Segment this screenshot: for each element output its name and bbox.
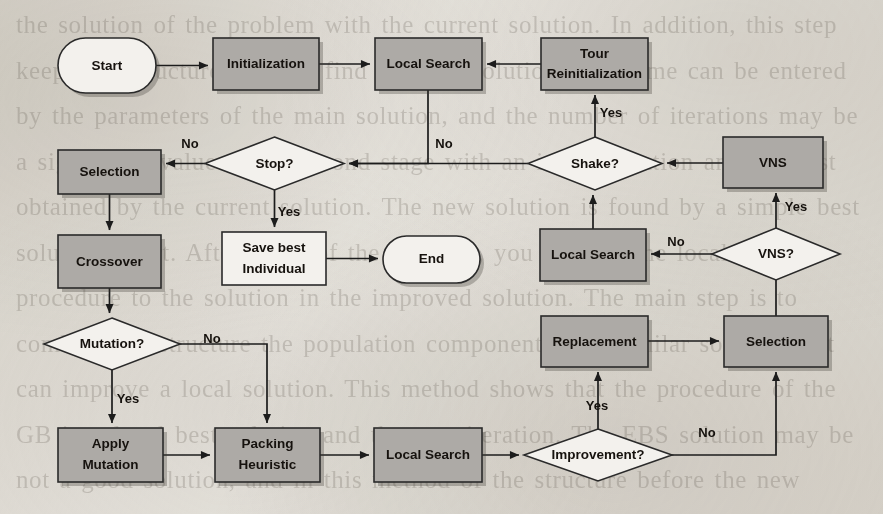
edge-label-stop-no: No [181, 136, 198, 151]
node-tour-reinitialization-label-line2: Reinitialization [547, 66, 642, 81]
edge-label-mutation-no: No [203, 331, 220, 346]
node-apply-mutation[interactable]: Apply Mutation [58, 428, 167, 486]
edge-label-stop-yes: Yes [278, 204, 300, 219]
edge-improvement-no-selection [672, 372, 776, 455]
node-selection-left-label: Selection [79, 164, 139, 179]
node-save-best-label-line2: Individual [242, 261, 305, 276]
edge-mutation-no-packing [180, 344, 267, 423]
edge-label-improvement-yes: Yes [586, 398, 608, 413]
node-local-search-mid-label: Local Search [551, 247, 635, 262]
edge-label-shake-yes: Yes [600, 105, 622, 120]
node-end-label: End [419, 251, 445, 266]
node-improvement-decision-label: Improvement? [551, 447, 644, 462]
node-stop-decision-label: Stop? [255, 156, 293, 171]
node-tour-reinitialization[interactable]: Tour Reinitialization [541, 38, 652, 94]
node-vns-question-label: VNS? [758, 246, 794, 261]
node-shake-decision-label: Shake? [571, 156, 619, 171]
edge-label-vns-question-yes: Yes [785, 199, 807, 214]
node-crossover-label: Crossover [76, 254, 144, 269]
node-local-search-top-label: Local Search [386, 56, 470, 71]
node-local-search-bottom[interactable]: Local Search [374, 428, 486, 486]
node-initialization[interactable]: Initialization [213, 38, 323, 94]
node-apply-mutation-label-line2: Mutation [82, 457, 138, 472]
node-selection-left[interactable]: Selection [58, 150, 165, 198]
node-local-search-bottom-label: Local Search [386, 447, 470, 462]
edge-label-improvement-no: No [698, 425, 715, 440]
node-crossover[interactable]: Crossover [58, 235, 165, 292]
edge-label-vns-question-no: No [667, 234, 684, 249]
flowchart-canvas: Selection (left) --> Save best Individua… [0, 0, 883, 514]
node-vns[interactable]: VNS [723, 137, 827, 192]
edge-local-search-stop [349, 90, 428, 164]
node-start-label: Start [92, 58, 123, 73]
node-replacement-label: Replacement [552, 334, 637, 349]
node-start[interactable]: Start [58, 38, 160, 97]
edge-label-shake-no: No [435, 136, 452, 151]
node-selection-right[interactable]: Selection [724, 316, 832, 371]
node-end[interactable]: End [383, 236, 484, 287]
node-selection-right-label: Selection [746, 334, 806, 349]
node-save-best-individual[interactable]: Save best Individual [222, 232, 326, 285]
edge-label-mutation-yes: Yes [117, 391, 139, 406]
node-apply-mutation-label-line1: Apply [92, 436, 130, 451]
node-local-search-top[interactable]: Local Search [375, 38, 486, 94]
node-mutation-decision[interactable]: Mutation? [44, 318, 180, 370]
node-vns-label: VNS [759, 155, 787, 170]
node-packing-heuristic[interactable]: Packing Heuristic [215, 428, 324, 486]
node-mutation-decision-label: Mutation? [80, 336, 144, 351]
node-shake-decision[interactable]: Shake? [528, 137, 662, 190]
node-vns-question-decision[interactable]: VNS? [712, 228, 840, 280]
node-layer: Start Initialization Local Search Tour R… [44, 38, 840, 486]
node-replacement[interactable]: Replacement [541, 316, 652, 371]
node-tour-reinitialization-label-line1: Tour [580, 46, 610, 61]
node-initialization-label: Initialization [227, 56, 305, 71]
node-improvement-decision[interactable]: Improvement? [524, 429, 672, 481]
node-local-search-mid[interactable]: Local Search [540, 229, 650, 285]
node-save-best-label-line1: Save best [242, 240, 306, 255]
flowchart-page: the solution of the problem with the cur… [0, 0, 883, 514]
node-packing-heuristic-label-line1: Packing [242, 436, 294, 451]
node-stop-decision[interactable]: Stop? [205, 137, 344, 190]
node-packing-heuristic-label-line2: Heuristic [239, 457, 297, 472]
